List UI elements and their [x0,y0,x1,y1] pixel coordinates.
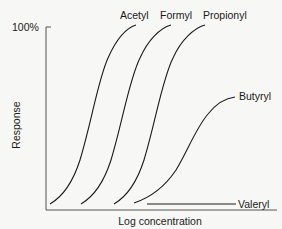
curve-butyryl [134,97,235,203]
label-acetyl: Acetyl [120,9,149,21]
dose-response-chart: 100% Response Log concentration Acetyl F… [0,0,282,229]
curves [50,25,236,204]
curve-propionyl [114,25,205,204]
label-formyl: Formyl [160,9,192,21]
y-tick-label-100: 100% [12,21,39,33]
x-axis-label: Log concentration [118,215,202,227]
label-valeryl: Valeryl [238,198,269,210]
label-propionyl: Propionyl [203,9,247,21]
y-axis-label: Response [10,101,22,148]
label-butyryl: Butyryl [239,90,271,102]
axes [46,27,277,210]
curve-formyl [81,25,171,204]
